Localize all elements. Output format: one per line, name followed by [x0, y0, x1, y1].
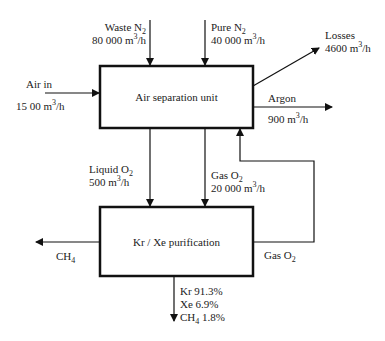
- air-in-flow: 15 00 m3/h: [16, 100, 65, 113]
- pure-n2-label: Pure N2 40 000 m3/h: [211, 21, 265, 47]
- kr-xe-purification-label: Kr / Xe purification: [100, 236, 253, 248]
- gas-o2-return-label: Gas O2: [264, 249, 296, 262]
- air-in-name: Air in: [26, 78, 52, 91]
- liquid-o2-label: Liquid O2 500 m3/h: [89, 163, 133, 189]
- gas-o2-label: Gas O2 20 000 m3/h: [211, 169, 265, 195]
- argon-name: Argon: [268, 92, 296, 105]
- losses-arrow: [253, 48, 319, 86]
- ch4-out-label: CH4: [56, 250, 75, 263]
- losses-label: Losses 4600 m3/h: [325, 29, 371, 55]
- argon-flow: 900 m3/h: [268, 113, 308, 126]
- air-separation-unit-label: Air separation unit: [100, 91, 253, 103]
- product-composition-label: Kr 91.3% Xe 6.9% CH4 1.8%: [180, 285, 225, 324]
- waste-n2-label: Waste N2 80 000 m3/h: [89, 21, 146, 47]
